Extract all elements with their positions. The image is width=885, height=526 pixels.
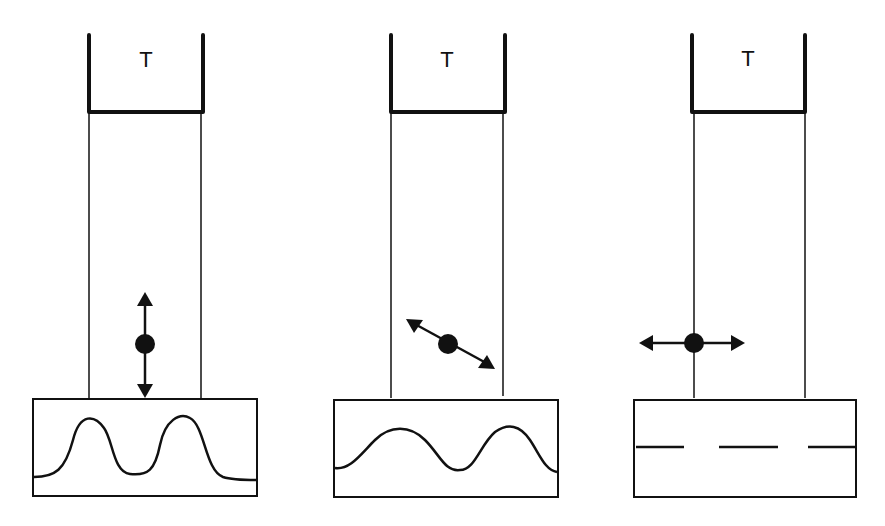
horizontal-arrow-icon — [639, 333, 745, 353]
panel-3: T — [634, 35, 856, 497]
particle-dot — [684, 333, 704, 353]
panel-label: T — [741, 46, 754, 71]
particle-dot — [438, 334, 458, 354]
particle-dot — [135, 334, 155, 354]
panel-1: T — [33, 35, 257, 496]
vertical-arrow-icon — [135, 292, 155, 398]
trace-wave — [335, 427, 557, 472]
panel-label: T — [440, 47, 453, 72]
diagonal-arrow-icon — [406, 319, 495, 369]
panel-2: T — [334, 35, 558, 497]
panel-label: T — [139, 47, 152, 72]
diagram-canvas: T T T — [0, 0, 885, 526]
trace-box — [634, 400, 856, 497]
trace-box — [33, 399, 257, 496]
trace-wave — [34, 416, 256, 480]
